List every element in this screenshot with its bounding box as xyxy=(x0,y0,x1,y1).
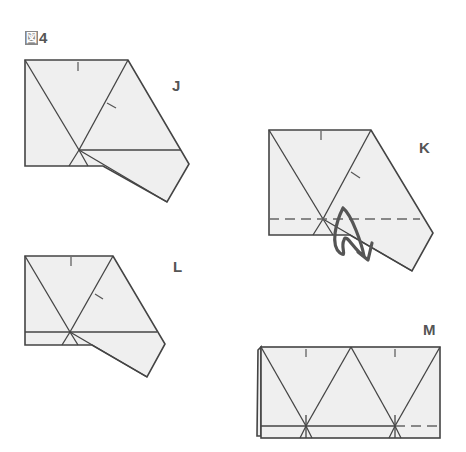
step-label-m: M xyxy=(423,321,436,338)
step-k-paper xyxy=(269,130,433,271)
step-m-diagram xyxy=(257,347,440,438)
step-l-diagram xyxy=(25,256,165,377)
step-l-paper xyxy=(25,256,165,377)
step-label-j: J xyxy=(172,77,180,94)
step-k-diagram xyxy=(269,130,433,271)
step-j-diagram xyxy=(25,60,189,202)
step-m-paper xyxy=(261,347,440,438)
origami-diagrams xyxy=(0,0,466,452)
step-label-k: K xyxy=(419,139,430,156)
step-j-paper xyxy=(25,60,189,202)
step-label-l: L xyxy=(173,258,182,275)
